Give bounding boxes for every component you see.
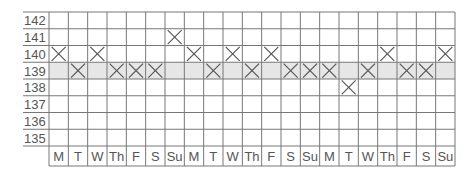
x-marker-icon xyxy=(168,30,182,44)
x-marker-icon xyxy=(226,47,240,61)
x-marker-icon xyxy=(380,47,394,61)
day-label: M xyxy=(324,149,335,164)
y-tick-label: 140 xyxy=(24,47,46,62)
day-label: S xyxy=(422,149,431,164)
day-label: S xyxy=(286,149,295,164)
x-marker-icon xyxy=(342,80,356,94)
x-marker-icon xyxy=(187,47,201,61)
x-marker-icon xyxy=(90,47,104,61)
day-label: F xyxy=(132,149,140,164)
day-label: S xyxy=(151,149,160,164)
day-label: T xyxy=(74,149,82,164)
weight-tracking-chart: 142141140139138137136135 MTWThFSSuMTWThF… xyxy=(0,0,476,173)
day-label: F xyxy=(267,149,275,164)
day-label: Th xyxy=(380,149,395,164)
y-axis-labels: 142141140139138137136135 xyxy=(24,13,46,145)
day-label: M xyxy=(53,149,64,164)
y-tick-label: 141 xyxy=(24,30,46,45)
y-tick-label: 139 xyxy=(24,64,46,79)
day-label: Su xyxy=(437,149,453,164)
x-axis-day-labels: MTWThFSSuMTWThFSSuMTWThFSSu xyxy=(53,149,453,164)
x-marker-icon xyxy=(264,47,278,61)
day-label: T xyxy=(209,149,217,164)
day-label: M xyxy=(189,149,200,164)
day-label: W xyxy=(362,149,375,164)
day-label: Su xyxy=(302,149,318,164)
day-label: Th xyxy=(109,149,124,164)
day-label: W xyxy=(227,149,240,164)
y-tick-label: 136 xyxy=(24,114,46,129)
chart-grid xyxy=(23,12,455,166)
day-label: Su xyxy=(167,149,183,164)
x-marker-icon xyxy=(52,47,66,61)
y-tick-label: 137 xyxy=(24,97,46,112)
y-tick-label: 142 xyxy=(24,13,46,28)
y-tick-label: 138 xyxy=(24,80,46,95)
day-label: F xyxy=(403,149,411,164)
day-label: W xyxy=(91,149,104,164)
x-marker-icon xyxy=(438,47,452,61)
y-tick-label: 135 xyxy=(24,131,46,146)
day-label: T xyxy=(345,149,353,164)
day-label: Th xyxy=(244,149,259,164)
